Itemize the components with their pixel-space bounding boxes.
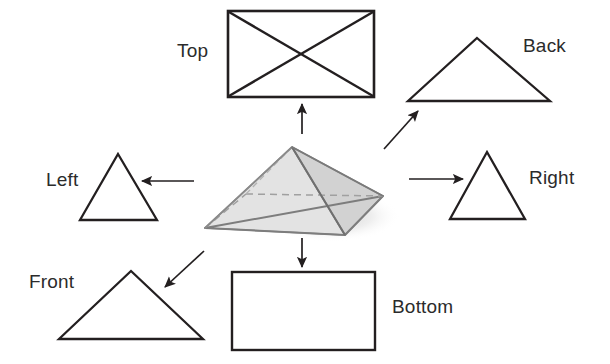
label-front-view: Front (29, 272, 74, 291)
label-top-view: Top (177, 41, 208, 60)
right-view-triangle (450, 152, 525, 219)
projection-diagram-page: Top Back Left Right Front Bottom (0, 0, 610, 364)
diagram-canvas (0, 0, 610, 364)
view-front (59, 271, 203, 339)
bottom-view-rectangle (232, 272, 375, 350)
label-right-view: Right (529, 168, 574, 187)
view-left (80, 154, 157, 220)
label-bottom-view: Bottom (392, 297, 453, 316)
label-left-view: Left (46, 170, 79, 189)
left-view-triangle (80, 154, 157, 220)
view-top (228, 11, 374, 97)
arrow-to-back (384, 111, 418, 149)
front-view-triangle (59, 271, 203, 339)
pyramid-object (205, 147, 400, 242)
label-back-view: Back (523, 36, 566, 55)
view-right (450, 152, 525, 219)
view-bottom (232, 272, 375, 350)
arrow-to-front (165, 251, 204, 287)
